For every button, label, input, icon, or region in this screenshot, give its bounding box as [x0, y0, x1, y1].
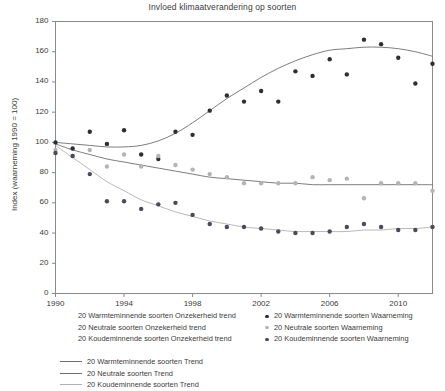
- legend-item-label: 20 Neutrale soorten Onzekerheid trend: [78, 323, 206, 332]
- data-point-series-2: [362, 222, 366, 226]
- data-point-series-2: [139, 207, 143, 211]
- y-axis-tick-label: 40: [21, 228, 49, 237]
- data-point-series-2: [173, 201, 177, 205]
- data-point-series-2: [105, 199, 109, 203]
- data-point-series-0: [225, 93, 229, 97]
- line-marker-icon: [60, 373, 82, 374]
- data-point-series-1: [379, 181, 383, 185]
- x-axis-tick-label: 2006: [310, 299, 350, 308]
- data-point-series-1: [345, 176, 349, 180]
- legend-item[interactable]: 20 Warmteminnende soorten Onzekerheid tr…: [78, 310, 236, 322]
- legend-observations-group: 20 Warmteminnende soorten Waarneming20 N…: [262, 310, 413, 345]
- x-axis-tick-label: 1994: [104, 299, 144, 308]
- data-point-series-2: [70, 154, 74, 158]
- y-axis-tick-label: 60: [21, 197, 49, 206]
- data-point-series-1: [293, 181, 297, 185]
- data-point-series-0: [53, 140, 57, 144]
- data-point-series-1: [259, 181, 263, 185]
- data-point-series-2: [156, 202, 160, 206]
- data-point-series-2: [396, 228, 400, 232]
- legend-item-label: 20 Koudeminnende soorten Waarneming: [274, 334, 409, 343]
- legend-item[interactable]: 20 Neutrale soorten Onzekerheid trend: [78, 322, 236, 334]
- legend-item-label: 20 Neutrale soorten Trend: [87, 369, 173, 378]
- data-point-series-2: [53, 151, 57, 155]
- data-point-series-2: [276, 229, 280, 233]
- legend-item[interactable]: 20 Warmteminnende soorten Trend: [60, 356, 203, 368]
- data-point-series-1: [122, 152, 126, 156]
- trend-line-series-1: [56, 144, 433, 185]
- data-point-series-2: [345, 225, 349, 229]
- data-point-series-1: [105, 164, 109, 168]
- data-point-series-0: [259, 89, 263, 93]
- data-point-series-0: [173, 130, 177, 134]
- data-point-series-0: [190, 133, 194, 137]
- legend-item[interactable]: 20 Neutrale soorten Trend: [60, 368, 203, 380]
- data-point-series-1: [396, 181, 400, 185]
- data-point-series-0: [362, 37, 366, 41]
- data-point-series-2: [293, 231, 297, 235]
- data-point-series-1: [276, 181, 280, 185]
- line-marker-icon: [60, 384, 82, 385]
- trend-line-series-0: [56, 47, 433, 147]
- data-point-series-1: [139, 164, 143, 168]
- data-point-series-0: [379, 42, 383, 46]
- y-axis-tick-label: 140: [21, 76, 49, 85]
- data-point-series-1: [208, 172, 212, 176]
- data-point-series-1: [327, 178, 331, 182]
- x-axis-tick-label: 1998: [173, 299, 213, 308]
- y-axis-tick-label: 20: [21, 258, 49, 267]
- data-point-series-1: [310, 175, 314, 179]
- x-axis-tick-label: 2002: [241, 299, 281, 308]
- data-point-series-2: [190, 213, 194, 217]
- data-point-series-1: [430, 189, 434, 193]
- legend-item-label: 20 Warmteminnende soorten Trend: [87, 357, 203, 366]
- y-axis-tick-label: 100: [21, 137, 49, 146]
- data-point-series-0: [242, 99, 246, 103]
- dot-marker-icon: [262, 311, 272, 320]
- legend-item[interactable]: 20 Neutrale soorten Waarneming: [262, 322, 413, 334]
- data-point-series-0: [105, 142, 109, 146]
- legend-item-label: 20 Warmteminnende soorten Onzekerheid tr…: [78, 311, 236, 320]
- data-point-series-2: [430, 225, 434, 229]
- data-point-series-2: [225, 225, 229, 229]
- data-point-series-2: [310, 231, 314, 235]
- legend-item-label: 20 Koudeminnende soorten Trend: [87, 380, 199, 389]
- data-point-series-0: [345, 72, 349, 76]
- legend-item[interactable]: 20 Koudeminnende soorten Onzekerheid tre…: [78, 333, 236, 345]
- data-point-series-2: [327, 229, 331, 233]
- legend-uncertainty-group: 20 Warmteminnende soorten Onzekerheid tr…: [78, 310, 236, 345]
- dot-marker-icon: [262, 334, 272, 343]
- trend-line-series-2: [56, 145, 433, 231]
- data-point-series-0: [396, 56, 400, 60]
- data-point-series-2: [122, 199, 126, 203]
- data-point-series-1: [225, 175, 229, 179]
- data-point-series-0: [430, 62, 434, 66]
- data-point-series-0: [139, 152, 143, 156]
- dot-marker-icon: [262, 323, 272, 332]
- data-point-series-1: [88, 148, 92, 152]
- data-point-series-1: [413, 181, 417, 185]
- legend-item[interactable]: 20 Koudeminnende soorten Waarneming: [262, 333, 413, 345]
- legend-item[interactable]: 20 Warmteminnende soorten Waarneming: [262, 310, 413, 322]
- data-point-series-1: [156, 154, 160, 158]
- data-point-series-1: [173, 163, 177, 167]
- x-axis-tick-label: 1990: [36, 299, 76, 308]
- data-point-series-0: [310, 74, 314, 78]
- line-marker-icon: [60, 361, 82, 362]
- y-axis-tick-label: 0: [21, 288, 49, 297]
- y-axis-tick-label: 120: [21, 107, 49, 116]
- data-point-series-0: [413, 81, 417, 85]
- legend-trends-group: 20 Warmteminnende soorten Trend20 Neutra…: [60, 356, 203, 391]
- data-point-series-1: [242, 181, 246, 185]
- y-axis-tick-label: 160: [21, 46, 49, 55]
- data-point-series-2: [379, 225, 383, 229]
- x-axis-tick-label: 2010: [378, 299, 418, 308]
- data-point-series-0: [327, 57, 331, 61]
- data-point-series-1: [362, 196, 366, 200]
- data-point-series-0: [293, 69, 297, 73]
- data-point-series-0: [70, 146, 74, 150]
- data-point-series-1: [190, 167, 194, 171]
- legend-item[interactable]: 20 Koudeminnende soorten Trend: [60, 379, 203, 391]
- data-point-series-2: [88, 172, 92, 176]
- legend-item-label: 20 Warmteminnende soorten Waarneming: [274, 311, 413, 320]
